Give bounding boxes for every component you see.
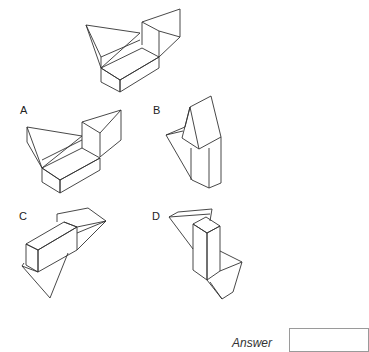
option-b-label: B bbox=[153, 104, 160, 116]
answer-label: Answer bbox=[232, 336, 272, 350]
option-a-figure[interactable] bbox=[27, 110, 121, 193]
option-a-label: A bbox=[20, 104, 27, 116]
option-c-label: C bbox=[19, 210, 27, 222]
option-b-figure[interactable] bbox=[166, 96, 221, 188]
option-d-figure[interactable] bbox=[169, 209, 242, 299]
option-d-label: D bbox=[152, 210, 160, 222]
option-c-figure[interactable] bbox=[22, 208, 106, 298]
reference-figure bbox=[86, 9, 180, 92]
answer-input[interactable] bbox=[289, 328, 369, 352]
